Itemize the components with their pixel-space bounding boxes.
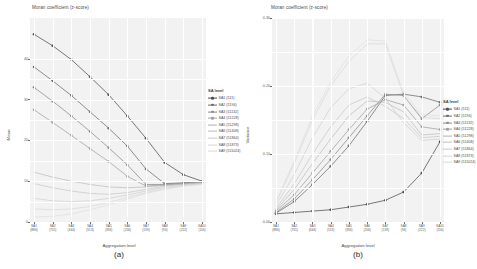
- x-axis-tick-label: SA8(94): [162, 225, 168, 232]
- y-axis-tick-label: 0.00: [239, 220, 270, 224]
- legend-item[interactable]: SA2 (5194): [443, 113, 475, 120]
- x-axis-tick-label: SA10(116): [436, 225, 444, 232]
- y-axis-tick-label: 0.20: [239, 84, 270, 88]
- y-axis-tick-mark: [28, 59, 30, 60]
- legend-item-label: SA8 (51873): [454, 154, 474, 158]
- gridline-horizontal: [30, 140, 206, 141]
- panel-b-ylabel-wrap: Variance: [245, 126, 250, 143]
- gridline-horizontal: [272, 86, 444, 87]
- x-axis-tick-label: SA8(94): [401, 225, 407, 232]
- x-axis-tick-label: SA4(513): [86, 225, 93, 232]
- legend-swatch-icon: [208, 142, 217, 148]
- legend-item[interactable]: SA5 (51298): [208, 122, 240, 129]
- legend-item[interactable]: SA3 (51132): [443, 119, 475, 126]
- gridline-vertical: [349, 18, 350, 222]
- x-axis-tick-label: SA6(256): [363, 225, 370, 232]
- panel-a-plot-area: [30, 18, 206, 222]
- legend-item[interactable]: SA5 (51298): [443, 133, 475, 140]
- legend-swatch-icon: [208, 109, 217, 115]
- series-line: [276, 97, 440, 209]
- x-axis-tick-label: SA1(886): [272, 225, 279, 232]
- legend-item-label: SA6 (51408): [219, 129, 239, 133]
- series-line: [276, 40, 440, 202]
- x-axis-tick-label: SA4(513): [327, 225, 334, 232]
- gridline-horizontal: [30, 59, 206, 60]
- x-axis-tick-label: SA7(139): [382, 225, 389, 232]
- gridline-vertical: [90, 18, 91, 222]
- gridline-vertical: [331, 18, 332, 222]
- gridline-horizontal-minor: [272, 120, 444, 121]
- series-line: [34, 172, 202, 188]
- gridline-vertical: [385, 18, 386, 222]
- series-line: [34, 183, 202, 194]
- series-line: [276, 44, 440, 203]
- legend-item[interactable]: SA4 (51228): [208, 115, 240, 122]
- legend-item[interactable]: SA9 (511024): [443, 159, 475, 166]
- panel-b-caption: (b): [239, 250, 477, 259]
- legend-swatch-icon: [208, 102, 217, 108]
- gridline-vertical: [312, 18, 313, 222]
- legend-item[interactable]: SA9 (511024): [208, 148, 240, 155]
- x-axis-tick-label: SA9(222): [180, 225, 187, 232]
- legend-item-label: SA1 (511): [219, 96, 235, 100]
- legend-item[interactable]: SA1 (511): [208, 95, 240, 102]
- panel-b-title: Moran coefficient (z-score): [271, 5, 328, 10]
- legend-item[interactable]: SA7 (51864): [208, 135, 240, 142]
- panel-a-legend: SA level SA1 (511)SA2 (5194)SA3 (51132)S…: [208, 88, 240, 155]
- legend-swatch-icon: [208, 122, 217, 128]
- gridline-vertical: [202, 18, 203, 222]
- x-axis-tick-label: SA5(394): [345, 225, 352, 232]
- gridline-vertical: [294, 18, 295, 222]
- legend-item[interactable]: SA4 (51228): [443, 126, 475, 133]
- legend-item-label: SA2 (5194): [454, 114, 472, 118]
- legend-swatch-icon: [443, 159, 452, 165]
- y-axis-tick-mark: [28, 140, 30, 141]
- gridline-vertical: [404, 18, 405, 222]
- legend-title: SA level: [208, 88, 240, 93]
- series-line: [34, 110, 202, 186]
- legend-swatch-icon: [208, 128, 217, 134]
- legend-item-label: SA3 (51132): [219, 110, 239, 114]
- legend-swatch-icon: [443, 146, 452, 152]
- gridline-vertical: [109, 18, 110, 222]
- x-axis-tick-label: SA2(755): [290, 225, 297, 232]
- legend-swatch-icon: [208, 135, 217, 141]
- series-line: [34, 184, 202, 202]
- legend-item[interactable]: SA6 (51408): [443, 139, 475, 146]
- x-axis-tick-label: SA7(139): [142, 225, 149, 232]
- legend-item[interactable]: SA6 (51408): [208, 128, 240, 135]
- gridline-vertical: [71, 18, 72, 222]
- gridline-vertical: [367, 18, 368, 222]
- legend-item[interactable]: SA2 (5194): [208, 102, 240, 109]
- legend-item-label: SA7 (51864): [454, 147, 474, 151]
- legend-item[interactable]: SA8 (51873): [443, 152, 475, 159]
- legend-item[interactable]: SA1 (511): [443, 106, 475, 113]
- legend-title: SA level: [443, 99, 475, 104]
- legend-item-label: SA9 (511024): [454, 160, 476, 164]
- figure-container: Moran coefficient (z-score) Mean 0102030…: [0, 0, 477, 269]
- legend-swatch-icon: [208, 95, 217, 101]
- legend-item-label: SA2 (5194): [219, 103, 237, 107]
- x-axis-tick-label: SA2(755): [49, 225, 56, 232]
- legend-item-label: SA5 (51298): [454, 134, 474, 138]
- x-axis-tick-label: SA3(644): [309, 225, 316, 232]
- x-axis-tick-label: SA5(394): [105, 225, 112, 232]
- y-axis-tick-label: 0.30: [239, 16, 270, 20]
- y-axis-tick-mark: [270, 86, 272, 87]
- legend-item[interactable]: SA3 (51132): [208, 108, 240, 115]
- gridline-vertical: [276, 18, 277, 222]
- y-axis-tick-mark: [270, 18, 272, 19]
- panel-a-title: Moran coefficient (z-score): [32, 5, 89, 10]
- y-axis-tick-label: 10: [0, 179, 28, 183]
- y-axis-tick-mark: [28, 222, 30, 223]
- legend-item[interactable]: SA8 (51873): [208, 141, 240, 148]
- panel-a: Moran coefficient (z-score) Mean 0102030…: [0, 0, 238, 269]
- gridline-horizontal-minor: [30, 120, 206, 121]
- legend-item[interactable]: SA7 (51864): [443, 146, 475, 153]
- gridline-horizontal-minor: [30, 161, 206, 162]
- gridline-vertical: [183, 18, 184, 222]
- gridline-horizontal: [272, 222, 444, 223]
- legend-item-label: SA8 (51873): [219, 143, 239, 147]
- gridline-vertical: [146, 18, 147, 222]
- panel-b-xlabel: Aggregation level: [239, 243, 477, 248]
